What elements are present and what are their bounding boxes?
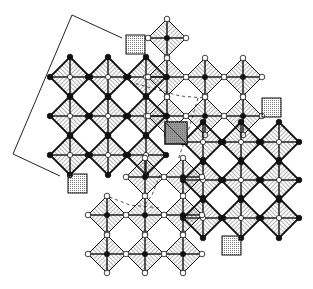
block-lower-left	[85, 155, 205, 276]
crystal-structure-diagram	[0, 0, 313, 289]
shaded-octahedron	[165, 122, 187, 144]
octahedra-blocks	[47, 16, 302, 276]
